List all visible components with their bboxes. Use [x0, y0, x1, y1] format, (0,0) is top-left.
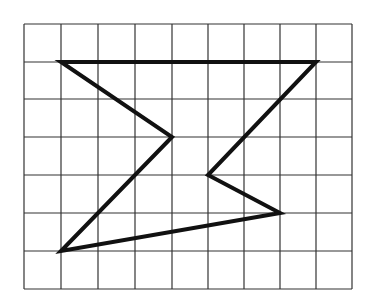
grid-diagram [0, 0, 370, 304]
polygon-shape [61, 62, 316, 251]
